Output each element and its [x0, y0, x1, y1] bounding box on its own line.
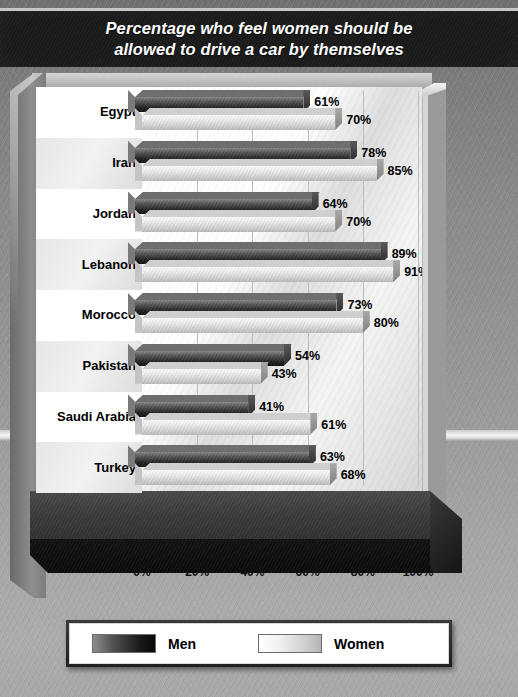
bar-top: [135, 293, 344, 300]
bar-cap: [363, 311, 370, 333]
bar-top: [135, 141, 358, 148]
bar-face: [142, 115, 335, 130]
chart-3d-block: EgyptIranJordanLebanonMoroccoPakistanSau…: [10, 73, 460, 598]
chart-base-top: [30, 491, 430, 539]
bar-value-women-jordan: 70%: [346, 215, 371, 229]
bar-top: [142, 311, 371, 318]
chart-base-side: [430, 491, 462, 573]
legend-label-women: Women: [334, 636, 384, 652]
bar-top: [142, 210, 343, 217]
chart-title: Percentage who feel women should be allo…: [0, 11, 518, 60]
bar-value-men-turkey: 63%: [320, 450, 345, 464]
bar-cap: [335, 210, 342, 232]
bar-top: [142, 413, 318, 420]
bars-layer: 61%70%78%85%64%70%89%91%73%80%54%43%41%6…: [36, 87, 422, 493]
bar-face: [142, 267, 393, 282]
bar-top: [135, 395, 256, 402]
bar-face: [142, 369, 261, 384]
bar-women-egypt: [142, 115, 335, 130]
bar-top: [142, 260, 401, 267]
bar-value-women-iran: 85%: [388, 164, 413, 178]
bar-top: [142, 463, 337, 470]
bar-top: [142, 159, 384, 166]
bar-value-men-morocco: 73%: [347, 298, 372, 312]
chart-title-line-1: Percentage who feel women should be: [106, 19, 413, 37]
bar-top: [135, 344, 292, 351]
legend-inner: Men Women: [69, 623, 449, 664]
bar-women-turkey: [142, 470, 330, 485]
axis-tick-label: 60%: [296, 565, 320, 579]
bar-women-iran: [142, 166, 377, 181]
bar-top: [142, 108, 343, 115]
bar-women-lebanon: [142, 267, 393, 282]
bar-value-men-jordan: 64%: [323, 197, 348, 211]
legend: Men Women: [66, 620, 452, 667]
bar-value-men-lebanon: 89%: [392, 247, 417, 261]
chart-title-bar: Percentage who feel women should be allo…: [0, 8, 518, 67]
bar-cap: [335, 108, 342, 130]
x-axis-tick-labels: 0%20%40%60%80%100%: [30, 565, 430, 585]
bar-value-women-lebanon: 91%: [404, 265, 422, 279]
bar-top: [135, 192, 319, 199]
axis-tick-label: 20%: [185, 565, 209, 579]
bar-women-pakistan: [142, 369, 261, 384]
axis-tick-label: 100%: [403, 565, 434, 579]
bar-women-jordan: [142, 217, 335, 232]
bar-cap: [393, 260, 400, 282]
legend-item-men: Men: [92, 634, 196, 653]
bar-face: [142, 470, 330, 485]
bar-value-women-turkey: 68%: [341, 468, 366, 482]
bar-cap: [284, 344, 291, 366]
axis-tick-label: 80%: [351, 565, 375, 579]
axis-tick-label: 0%: [133, 565, 150, 579]
axis-tick-label: 40%: [240, 565, 264, 579]
bar-top: [142, 362, 268, 369]
bar-face: [142, 318, 363, 333]
legend-item-women: Women: [258, 634, 384, 653]
bar-top: [135, 445, 317, 452]
bar-value-women-egypt: 70%: [346, 113, 371, 127]
bar-women-morocco: [142, 318, 363, 333]
plot-area: EgyptIranJordanLebanonMoroccoPakistanSau…: [36, 87, 422, 493]
bar-value-women-morocco: 80%: [374, 316, 399, 330]
bar-cap: [310, 413, 317, 435]
bar-top: [135, 242, 388, 249]
bar-cap: [330, 463, 337, 485]
legend-swatch-women: [258, 634, 322, 653]
legend-swatch-men: [92, 634, 156, 653]
bar-cap: [261, 362, 268, 384]
bar-face: [142, 166, 377, 181]
chart-title-line-2: allowed to drive a car by themselves: [114, 40, 404, 58]
bar-value-women-saudi-arabia: 61%: [321, 418, 346, 432]
bar-face: [142, 217, 335, 232]
bar-women-saudi-arabia: [142, 420, 310, 435]
bar-value-women-pakistan: 43%: [272, 367, 297, 381]
bar-face: [142, 420, 310, 435]
bar-value-men-egypt: 61%: [314, 95, 339, 109]
bar-cap: [377, 159, 384, 181]
bar-value-men-iran: 78%: [361, 146, 386, 160]
bar-top: [135, 90, 311, 97]
bar-value-men-pakistan: 54%: [295, 349, 320, 363]
legend-label-men: Men: [168, 636, 196, 652]
bar-value-men-saudi-arabia: 41%: [259, 400, 284, 414]
